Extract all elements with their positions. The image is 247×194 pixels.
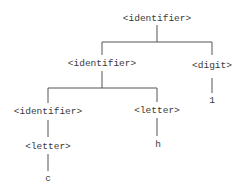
node-letter-h: <letter> xyxy=(134,105,180,116)
node-identifier-level3: <identifier> xyxy=(14,106,83,117)
tree-edges xyxy=(48,25,212,171)
node-digit: <digit> xyxy=(192,60,232,71)
node-root-identifier: <identifier> xyxy=(123,13,192,24)
leaf-one: 1 xyxy=(209,95,215,106)
node-identifier-level2: <identifier> xyxy=(68,58,137,69)
leaf-c: c xyxy=(45,173,51,184)
parse-tree-diagram: <identifier> <identifier> <digit> 1 <ide… xyxy=(0,0,247,194)
node-letter-c: <letter> xyxy=(25,141,71,152)
leaf-h: h xyxy=(155,139,161,150)
